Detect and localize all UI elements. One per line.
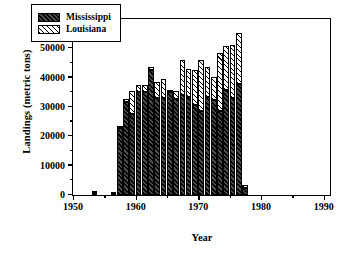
bar-1956 xyxy=(111,194,117,195)
bar-1973 xyxy=(217,53,223,195)
bar-segment-mississippi xyxy=(154,98,160,195)
y-tick-label: 20000 xyxy=(5,131,65,141)
bar-segment-louisiana xyxy=(211,77,217,100)
bar-segment-mississippi xyxy=(180,95,186,195)
x-tick-label: 1960 xyxy=(116,202,156,212)
bar-segment-mississippi xyxy=(236,84,242,195)
bar-1969 xyxy=(192,70,198,195)
y-tick-label: 0 xyxy=(5,190,65,200)
bar-segment-mississippi xyxy=(242,188,248,195)
legend-label-mississippi: Mississippi xyxy=(66,12,111,22)
bar-segment-mississippi xyxy=(173,99,179,195)
y-tick-label: 30000 xyxy=(5,102,65,112)
bar-1972 xyxy=(211,77,217,195)
bar-1970 xyxy=(198,60,204,195)
bar-segment-mississippi xyxy=(123,102,129,195)
y-tick xyxy=(68,47,73,48)
bar-1953 xyxy=(92,192,98,195)
bar-segment-louisiana xyxy=(186,69,192,97)
bar-1964 xyxy=(161,79,167,195)
bar-1977 xyxy=(242,185,248,195)
bar-segment-louisiana xyxy=(180,60,186,94)
bar-segment-louisiana xyxy=(161,79,167,99)
x-tick xyxy=(198,195,199,200)
y-tick-label: 10000 xyxy=(5,161,65,171)
bar-segment-louisiana xyxy=(236,33,242,84)
x-tick-label: 1970 xyxy=(178,202,218,212)
legend-label-louisiana: Louisiana xyxy=(66,24,106,34)
plot-area: 0100002000030000400005000060000195019601… xyxy=(72,18,331,196)
bar-segment-louisiana xyxy=(230,45,236,98)
legend-item: Louisiana xyxy=(38,24,111,34)
bar-segment-louisiana xyxy=(242,185,248,188)
bar-segment-mississippi xyxy=(223,90,229,195)
bar-segment-louisiana xyxy=(117,126,123,128)
bar-segment-louisiana xyxy=(217,53,223,111)
x-tick xyxy=(104,195,105,198)
bar-segment-louisiana xyxy=(223,46,229,90)
x-tick xyxy=(292,195,293,198)
x-tick xyxy=(73,195,74,200)
bar-1968 xyxy=(186,69,192,195)
bar-1976 xyxy=(236,33,242,195)
bar-segment-louisiana xyxy=(154,82,160,98)
y-tick xyxy=(68,106,73,107)
x-tick-label: 1990 xyxy=(304,202,344,212)
chart-figure: Landings (metric tons) 01000020000300004… xyxy=(0,0,344,258)
y-tick xyxy=(70,150,73,151)
bar-1974 xyxy=(223,46,229,195)
bar-segment-louisiana xyxy=(148,67,154,70)
bar-segment-mississippi xyxy=(148,70,154,195)
bar-segment-louisiana xyxy=(173,91,179,99)
x-tick xyxy=(324,195,325,200)
x-tick-label: 1950 xyxy=(53,202,93,212)
bar-segment-mississippi xyxy=(211,100,217,195)
y-tick xyxy=(70,91,73,92)
bar-segment-louisiana xyxy=(205,67,211,97)
bar-1957 xyxy=(117,128,123,195)
bar-segment-mississippi xyxy=(198,111,204,195)
bar-1959 xyxy=(129,91,135,195)
bar-segment-louisiana xyxy=(136,85,142,92)
bar-1958 xyxy=(123,99,129,196)
bar-segment-mississippi xyxy=(117,128,123,195)
bar-1966 xyxy=(173,91,179,195)
bar-1962 xyxy=(148,67,154,195)
bar-segment-louisiana xyxy=(123,99,129,102)
y-tick xyxy=(70,120,73,121)
y-tick xyxy=(68,135,73,136)
bar-series-container xyxy=(73,19,330,195)
x-tick xyxy=(167,195,168,198)
x-tick xyxy=(230,195,231,198)
bar-segment-mississippi xyxy=(161,98,167,195)
bar-segment-mississippi xyxy=(205,97,211,195)
bar-segment-mississippi xyxy=(186,97,192,195)
y-tick-label: 40000 xyxy=(5,73,65,83)
bar-1960 xyxy=(136,85,142,195)
bar-segment-mississippi xyxy=(129,114,135,195)
legend-swatch-louisiana xyxy=(38,25,60,34)
bar-segment-louisiana xyxy=(198,60,204,111)
bar-1967 xyxy=(180,60,186,195)
bar-segment-louisiana xyxy=(167,90,173,92)
bar-segment-mississippi xyxy=(230,98,236,195)
bar-segment-mississippi xyxy=(167,92,173,195)
bar-1961 xyxy=(142,85,148,195)
bar-segment-mississippi xyxy=(136,92,142,195)
bar-segment-louisiana xyxy=(142,85,148,92)
bar-1971 xyxy=(205,67,211,195)
x-tick xyxy=(261,195,262,200)
bar-segment-louisiana xyxy=(111,192,117,194)
bar-1963 xyxy=(154,82,160,195)
chart-legend: Mississippi Louisiana xyxy=(31,4,121,42)
y-tick xyxy=(70,179,73,180)
bar-1975 xyxy=(230,45,236,195)
y-tick xyxy=(68,164,73,165)
legend-item: Mississippi xyxy=(38,12,111,22)
bar-segment-louisiana xyxy=(92,191,98,193)
bar-segment-mississippi xyxy=(142,92,148,195)
y-tick xyxy=(70,62,73,63)
bar-segment-mississippi xyxy=(192,105,198,195)
bar-segment-mississippi xyxy=(217,111,223,195)
x-axis-label: Year xyxy=(72,232,332,243)
